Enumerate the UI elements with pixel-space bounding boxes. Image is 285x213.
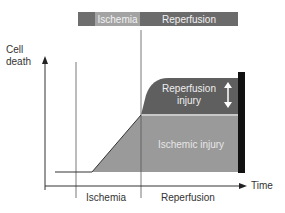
y-axis-label-line1: Cell bbox=[6, 44, 31, 56]
x-axis-arrow-icon bbox=[239, 183, 247, 189]
cell-death-diagram bbox=[0, 0, 285, 213]
y-axis-arrow-icon bbox=[42, 56, 48, 64]
reperfusion-injury-label-line1: Reperfusion bbox=[156, 83, 222, 95]
reperfusion-injury-label-line2: injury bbox=[156, 95, 222, 107]
phase-label-reperfusion: Reperfusion bbox=[161, 192, 215, 204]
reperfusion-injury-label: Reperfusion injury bbox=[156, 83, 222, 107]
y-axis-label: Cell death bbox=[6, 44, 31, 68]
x-axis-label: Time bbox=[251, 180, 273, 192]
ischemic-injury-label: Ischemic injury bbox=[148, 139, 234, 151]
phase-label-ischemia: Ischemia bbox=[86, 192, 126, 204]
y-axis-label-line2: death bbox=[6, 56, 31, 68]
black-bar bbox=[238, 72, 245, 173]
